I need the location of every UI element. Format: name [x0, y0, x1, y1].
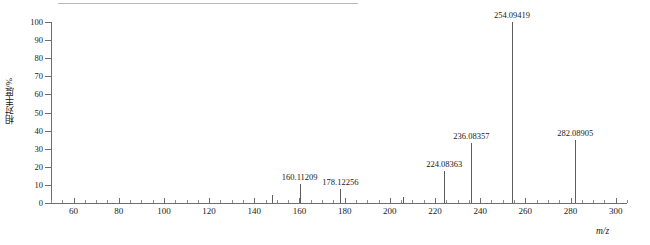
x-axis-tick-minor	[277, 200, 278, 203]
y-axis-tick-label: 100	[13, 18, 43, 27]
x-axis-tick-minor	[198, 200, 199, 203]
x-axis-tick-major	[164, 198, 165, 203]
x-axis-tick-label: 180	[325, 206, 365, 216]
y-axis-line	[51, 22, 52, 204]
x-axis-tick-major	[254, 198, 255, 203]
peak-label: 282.08905	[535, 129, 615, 138]
x-axis-tick-label: 200	[370, 206, 410, 216]
y-axis-tick	[45, 76, 51, 77]
x-axis-tick-label: 300	[596, 206, 636, 216]
x-axis-tick-major	[616, 198, 617, 203]
peak-bar	[575, 140, 576, 203]
x-axis-tick-minor	[153, 200, 154, 203]
plot-area: 0102030405060708090100 60801001201401601…	[0, 0, 650, 245]
x-axis-tick-minor	[491, 200, 492, 203]
x-axis-tick-label: 100	[144, 206, 184, 216]
x-axis-tick-major	[435, 198, 436, 203]
y-axis-tick	[45, 40, 51, 41]
x-axis-tick-major	[571, 198, 572, 203]
x-axis-tick-label: 140	[234, 206, 274, 216]
peak-bar	[512, 22, 513, 203]
x-axis-tick-label: 240	[460, 206, 500, 216]
x-axis-tick-minor	[559, 200, 560, 203]
x-axis-line	[51, 203, 627, 204]
x-axis-tick-minor	[243, 200, 244, 203]
x-axis-tick-minor	[582, 200, 583, 203]
y-axis-tick-label: 40	[13, 127, 43, 136]
x-axis-tick-minor	[548, 200, 549, 203]
x-axis-tick-major	[525, 198, 526, 203]
y-axis-tick-label: 90	[13, 36, 43, 45]
x-axis-tick-minor	[220, 200, 221, 203]
y-axis-tick	[45, 185, 51, 186]
x-axis-tick-minor	[401, 200, 402, 203]
x-axis-tick-label: 280	[551, 206, 591, 216]
y-axis-tick-label: 20	[13, 163, 43, 172]
x-axis-tick-minor	[322, 200, 323, 203]
y-axis-tick	[45, 131, 51, 132]
x-axis-tick-label: 260	[505, 206, 545, 216]
y-axis-tick	[45, 203, 51, 204]
mass-spectrum-figure: 0102030405060708090100 60801001201401601…	[0, 0, 650, 245]
x-axis-tick-label: 120	[189, 206, 229, 216]
x-axis-tick-minor	[537, 200, 538, 203]
peak-bar	[403, 197, 404, 203]
x-axis-tick-minor	[288, 200, 289, 203]
x-axis-tick-minor	[130, 200, 131, 203]
x-axis-tick-major	[480, 198, 481, 203]
x-axis-tick-minor	[187, 200, 188, 203]
x-axis-tick-minor	[62, 200, 63, 203]
x-axis-tick-minor	[311, 200, 312, 203]
x-axis-tick-minor	[514, 200, 515, 203]
x-axis-tick-minor	[446, 200, 447, 203]
x-axis-tick-label: 80	[99, 206, 139, 216]
y-axis-tick	[45, 149, 51, 150]
x-axis-tick-minor	[458, 200, 459, 203]
x-axis-tick-minor	[175, 200, 176, 203]
y-axis-tick-label: 80	[13, 54, 43, 63]
x-axis-tick-label: 220	[415, 206, 455, 216]
x-axis-tick-minor	[593, 200, 594, 203]
peak-bar	[340, 189, 341, 203]
x-axis-tick-minor	[379, 200, 380, 203]
peak-bar	[471, 143, 472, 203]
x-axis-tick-minor	[367, 200, 368, 203]
peak-bar	[300, 184, 301, 203]
y-axis-tick	[45, 58, 51, 59]
peak-label: 254.09419	[472, 11, 552, 20]
peak-bar	[444, 171, 445, 203]
x-axis-tick-minor	[51, 200, 52, 203]
x-axis-tick-minor	[412, 200, 413, 203]
x-axis-tick-major	[74, 198, 75, 203]
peak-label: 236.08357	[431, 132, 511, 141]
x-axis-tick-minor	[232, 200, 233, 203]
x-axis-tick-minor	[107, 200, 108, 203]
x-axis-tick-label: 160	[279, 206, 319, 216]
x-axis-tick-label: 60	[54, 206, 94, 216]
y-axis-tick-label: 0	[13, 199, 43, 208]
peak-bar	[272, 195, 273, 203]
x-axis-tick-major	[209, 198, 210, 203]
x-axis-tick-minor	[96, 200, 97, 203]
x-axis-tick-minor	[356, 200, 357, 203]
x-axis-tick-minor	[424, 200, 425, 203]
x-axis-tick-minor	[469, 200, 470, 203]
x-axis-tick-minor	[85, 200, 86, 203]
y-axis-tick-label: 30	[13, 145, 43, 154]
x-axis-tick-minor	[604, 200, 605, 203]
x-axis-tick-major	[390, 198, 391, 203]
y-axis-title: 相对丰度/%	[4, 78, 18, 124]
x-axis-tick-minor	[627, 200, 628, 203]
x-axis-tick-major	[119, 198, 120, 203]
x-axis-tick-minor	[141, 200, 142, 203]
x-axis-tick-minor	[266, 200, 267, 203]
x-axis-tick-minor	[503, 200, 504, 203]
peak-label: 178.12256	[300, 178, 380, 187]
y-axis-tick	[45, 113, 51, 114]
x-axis-tick-minor	[333, 200, 334, 203]
y-axis-tick	[45, 167, 51, 168]
x-axis-tick-major	[345, 198, 346, 203]
y-axis-tick-label: 10	[13, 181, 43, 190]
y-axis-tick	[45, 94, 51, 95]
y-axis-tick	[45, 22, 51, 23]
